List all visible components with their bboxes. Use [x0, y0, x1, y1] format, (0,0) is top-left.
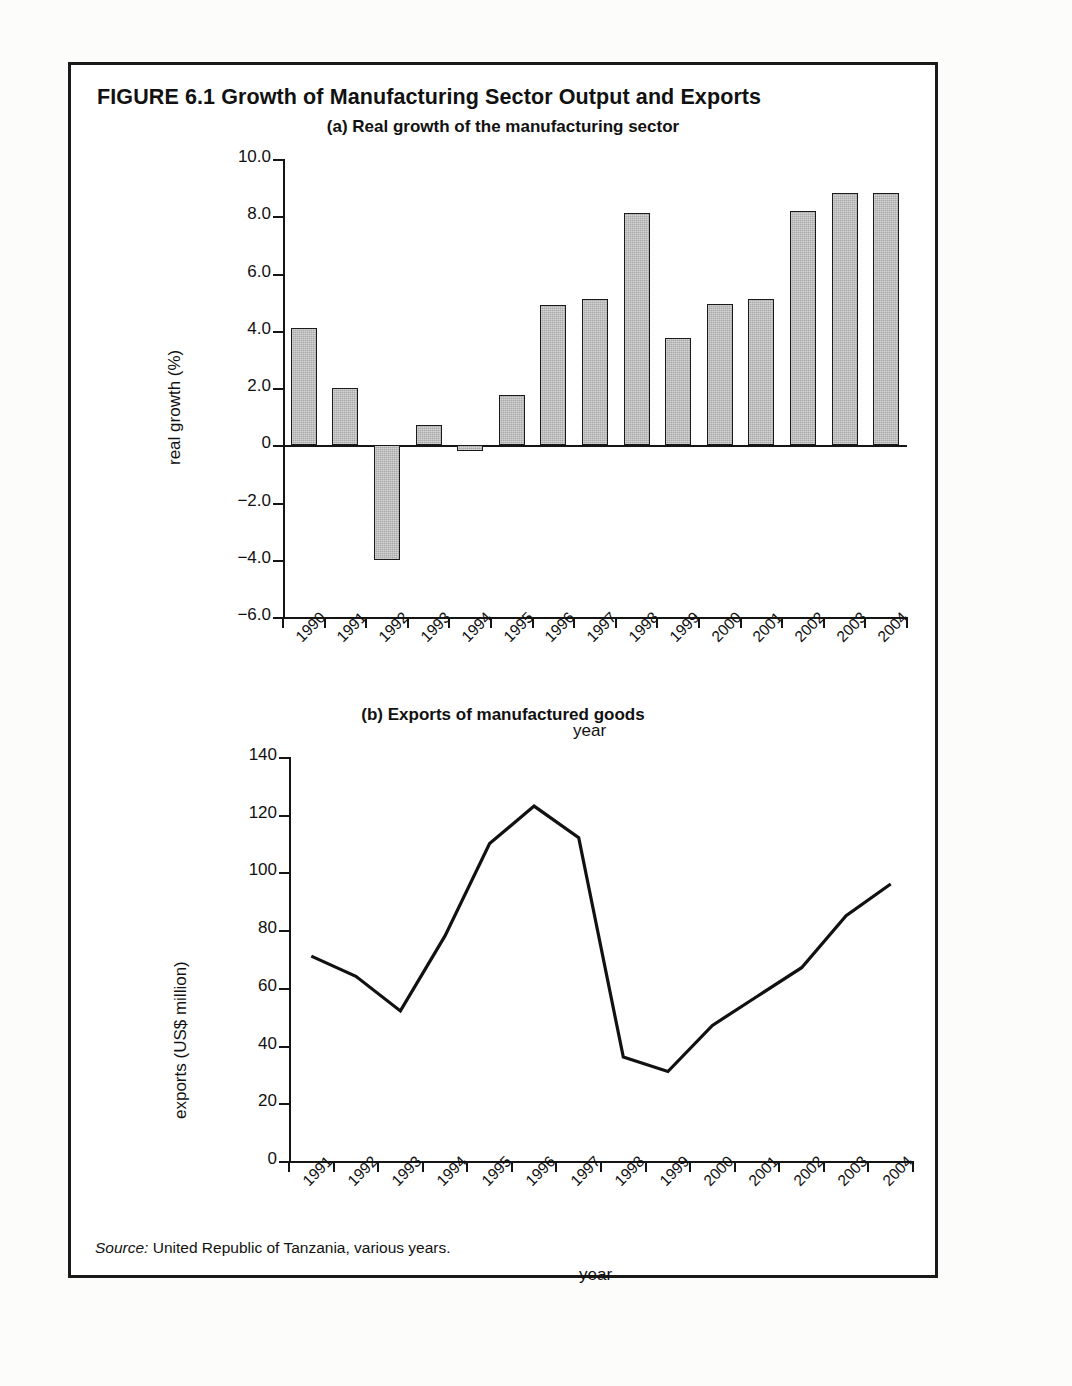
- figure-title: FIGURE 6.1 Growth of Manufacturing Secto…: [97, 85, 761, 110]
- bar: [416, 425, 442, 445]
- bar: [540, 305, 566, 445]
- figure-page: FIGURE 6.1 Growth of Manufacturing Secto…: [0, 0, 1072, 1386]
- figure-frame: FIGURE 6.1 Growth of Manufacturing Secto…: [68, 62, 938, 1278]
- bar: [873, 193, 899, 445]
- y-axis-line-a: [283, 159, 285, 617]
- bar: [707, 304, 733, 446]
- y-tick-a: [273, 159, 283, 161]
- x-axis-label-b: year: [579, 1265, 612, 1285]
- bar: [374, 445, 400, 560]
- bar: [748, 299, 774, 445]
- y-tick-label-a: −6.0: [187, 605, 271, 625]
- panel-a-plot-area: 10.08.06.04.02.00−2.0−4.0−6.0real growth…: [71, 117, 935, 677]
- bar: [790, 211, 816, 446]
- source-text: United Republic of Tanzania, various yea…: [153, 1239, 451, 1256]
- y-tick-a: [273, 503, 283, 505]
- y-tick-a: [273, 331, 283, 333]
- x-tick-label-a: 2003: [833, 609, 870, 646]
- y-tick-label-a: −2.0: [187, 491, 271, 511]
- bar: [582, 299, 608, 445]
- y-tick-label-a: 0: [187, 433, 271, 453]
- y-tick-a: [273, 274, 283, 276]
- exports-polyline: [311, 806, 890, 1071]
- bar: [832, 193, 858, 445]
- bar: [291, 328, 317, 445]
- source-label: Source:: [95, 1239, 148, 1256]
- bar: [332, 388, 358, 445]
- x-tick-label-a: 1998: [625, 609, 662, 646]
- y-tick-a: [273, 216, 283, 218]
- y-tick-label-a: 4.0: [187, 319, 271, 339]
- y-axis-label-a: real growth (%): [165, 350, 185, 465]
- y-tick-a: [273, 388, 283, 390]
- y-tick-label-a: 2.0: [187, 376, 271, 396]
- x-tick-label-a: 1993: [417, 609, 454, 646]
- y-tick-label-a: 6.0: [187, 262, 271, 282]
- y-tick-label-a: −4.0: [187, 548, 271, 568]
- x-tick-a: [282, 617, 284, 628]
- y-tick-label-a: 10.0: [187, 147, 271, 167]
- panel-a: (a) Real growth of the manufacturing sec…: [71, 117, 935, 677]
- bar: [665, 338, 691, 445]
- bar: [624, 213, 650, 445]
- panel-b: (b) Exports of manufactured goods 140120…: [71, 705, 935, 1235]
- bar: [499, 395, 525, 445]
- bar: [457, 445, 483, 451]
- y-tick-a: [273, 445, 283, 447]
- figure-source: Source: United Republic of Tanzania, var…: [95, 1239, 451, 1257]
- y-tick-a: [273, 560, 283, 562]
- exports-line-series: [71, 705, 935, 1235]
- y-tick-label-a: 8.0: [187, 204, 271, 224]
- panel-b-plot-area: 140120100806040200exports (US$ million)1…: [71, 705, 935, 1235]
